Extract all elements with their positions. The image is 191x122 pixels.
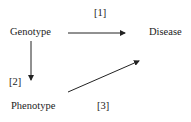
edge-label-1: [1] bbox=[94, 8, 106, 19]
node-disease: Disease bbox=[149, 27, 182, 38]
edge-label-3: [3] bbox=[97, 101, 109, 112]
arrow-phenotype-disease bbox=[68, 61, 139, 92]
node-phenotype: Phenotype bbox=[11, 101, 55, 112]
node-genotype: Genotype bbox=[10, 27, 51, 38]
edge-label-2: [2] bbox=[9, 77, 21, 88]
